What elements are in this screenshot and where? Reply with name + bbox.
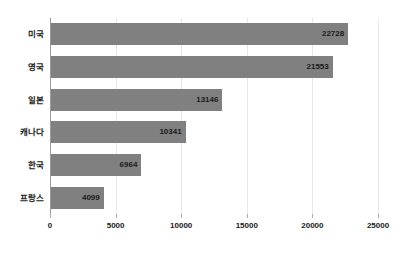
bar-row: 4099 xyxy=(50,187,378,209)
bar-row: 6964 xyxy=(50,154,378,176)
y-axis-line xyxy=(50,18,51,218)
plot-area: 2272821553131461034169644099 xyxy=(50,18,378,214)
bar-value-label: 4099 xyxy=(50,187,104,209)
x-tick-mark xyxy=(247,214,248,218)
x-tick-label: 0 xyxy=(48,221,52,230)
x-tick-label: 15000 xyxy=(236,221,258,230)
gridline xyxy=(312,18,313,214)
gridline xyxy=(181,18,182,214)
y-tick-label: 영국 xyxy=(2,56,44,78)
x-tick-mark xyxy=(312,214,313,218)
y-tick-label: 한국 xyxy=(2,154,44,176)
x-tick-label: 10000 xyxy=(170,221,192,230)
x-tick-mark xyxy=(116,214,117,218)
y-tick-label: 캐나다 xyxy=(2,121,44,143)
bar-value-label: 13146 xyxy=(50,89,222,111)
x-tick-label: 5000 xyxy=(107,221,125,230)
bar-value-label: 21553 xyxy=(50,56,333,78)
x-tick-mark xyxy=(378,214,379,218)
bar-row: 10341 xyxy=(50,121,378,143)
gridline xyxy=(378,18,379,214)
gridline xyxy=(247,18,248,214)
x-tick-mark xyxy=(181,214,182,218)
y-tick-label: 일본 xyxy=(2,89,44,111)
bar-value-label: 6964 xyxy=(50,154,141,176)
bar-row: 22728 xyxy=(50,23,378,45)
bar-row: 13146 xyxy=(50,89,378,111)
x-tick-label: 20000 xyxy=(301,221,323,230)
y-tick-label: 프랑스 xyxy=(2,187,44,209)
x-tick-mark xyxy=(50,214,51,218)
gridline xyxy=(116,18,117,214)
bar-row: 21553 xyxy=(50,56,378,78)
bar-chart-figure: 2272821553131461034169644099 미국영국일본캐나다한국… xyxy=(0,0,413,259)
bar-value-label: 10341 xyxy=(50,121,186,143)
y-tick-label: 미국 xyxy=(2,23,44,45)
bar-value-label: 22728 xyxy=(50,23,348,45)
x-tick-label: 25000 xyxy=(367,221,389,230)
